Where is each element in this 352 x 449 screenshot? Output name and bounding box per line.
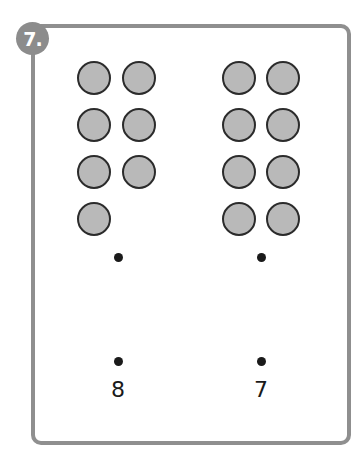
right-group-match-dot[interactable] [257, 253, 266, 262]
exercise-number: 7. [23, 28, 41, 50]
counter [222, 61, 256, 95]
exercise-number-badge: 7. [16, 22, 49, 55]
counter [266, 108, 300, 142]
counter [266, 155, 300, 189]
counter [122, 61, 156, 95]
counter [77, 61, 111, 95]
counter [77, 202, 111, 236]
counter [77, 155, 111, 189]
left-group-match-dot[interactable] [114, 253, 123, 262]
right-number-match-dot[interactable] [257, 357, 266, 366]
counter [222, 202, 256, 236]
right-number-label: 7 [241, 377, 281, 402]
counter [122, 108, 156, 142]
counter [266, 202, 300, 236]
counter [77, 108, 111, 142]
left-number-match-dot[interactable] [114, 357, 123, 366]
counter [222, 108, 256, 142]
left-number-label: 8 [98, 377, 138, 402]
counter [222, 155, 256, 189]
counter [266, 61, 300, 95]
counter [122, 155, 156, 189]
